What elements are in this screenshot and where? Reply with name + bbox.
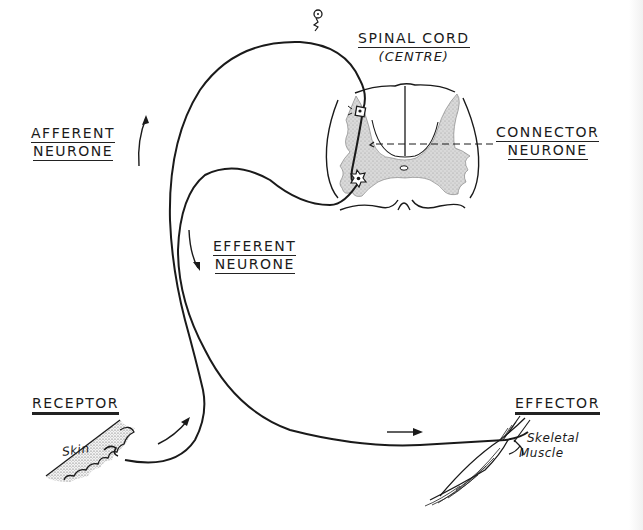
connector-neurone-label: CONNECTOR NEURONE: [496, 124, 599, 160]
spinal-cord-title: SPINAL CORD: [358, 30, 470, 48]
connector-line2: NEURONE: [508, 142, 588, 160]
muscle-line2: Muscle: [519, 446, 564, 460]
cord-outline-bottom-right: [412, 200, 465, 208]
muscle-line1: Skeletal: [527, 431, 579, 445]
afferent-line2: NEURONE: [33, 143, 113, 161]
sensory-input-arrow: [158, 417, 190, 444]
efferent-direction-arrow: [189, 230, 200, 271]
cord-outline-bottom-left: [340, 200, 398, 210]
spinal-cord-subtitle: (CENTRE): [379, 49, 449, 64]
efferent-line1: EFFERENT: [213, 238, 296, 256]
efferent-line2: NEURONE: [215, 256, 295, 274]
skin-receptor-icon: [46, 420, 135, 482]
afferent-direction-arrow: [139, 115, 149, 166]
cord-outline-left: [326, 100, 338, 198]
central-canal: [400, 166, 408, 170]
dorsal-root-ganglion-icon: [314, 10, 322, 31]
connector-line1: CONNECTOR: [496, 124, 599, 142]
afferent-neurone-label: AFFERENT NEURONE: [31, 125, 115, 161]
spinal-cord-label: SPINAL CORD (CENTRE): [358, 30, 470, 65]
anterior-fissure: [398, 203, 410, 210]
effector-label: EFFECTOR: [515, 395, 600, 415]
efferent-neurone-path: [178, 169, 528, 446]
spinal-cord-section: [326, 84, 478, 210]
page-edge-shadow: [629, 0, 643, 530]
muscle-label: Skeletal Muscle: [505, 431, 579, 461]
motor-output-arrow: [387, 428, 423, 436]
receptor-label: RECEPTOR: [32, 395, 119, 415]
skeletal-muscle-icon: [425, 416, 530, 506]
cord-outline-right: [463, 98, 479, 198]
afferent-line1: AFFERENT: [31, 125, 115, 143]
efferent-neurone-label: EFFERENT NEURONE: [213, 238, 296, 274]
